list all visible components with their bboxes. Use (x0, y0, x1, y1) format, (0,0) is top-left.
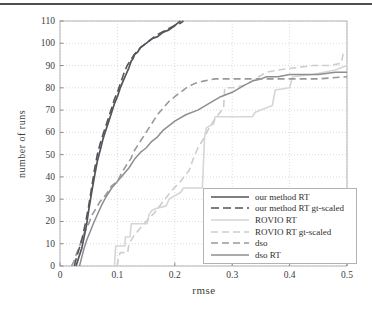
y-tick-label: 80 (46, 83, 56, 93)
legend-item-rovio-rt-gt-scaled: ROVIO RT gt-scaled (210, 226, 356, 237)
legend-line-swatch (210, 252, 250, 258)
y-tick-label: 70 (46, 105, 56, 115)
legend-item-our-method-rt-gt-scaled: our method RT gt-scaled (210, 203, 356, 214)
x-tick-label: 0.4 (284, 270, 296, 280)
y-tick-label: 110 (41, 16, 55, 26)
figure-canvas: 00.10.20.30.40.5010203040506070809010011… (0, 0, 372, 312)
x-axis-label: rmse (192, 284, 215, 296)
x-tick-label: 0 (58, 270, 63, 280)
legend-label: our method RT (255, 192, 309, 202)
y-tick-label: 0 (50, 261, 55, 271)
legend-label: ROVIO RT gt-scaled (255, 227, 331, 237)
y-tick-label: 60 (46, 127, 56, 137)
legend-label: our method RT gt-scaled (255, 203, 344, 213)
x-tick-label: 0.5 (341, 270, 353, 280)
x-tick-label: 0.3 (226, 270, 238, 280)
y-tick-label: 40 (46, 172, 56, 182)
line-chart: 00.10.20.30.40.5010203040506070809010011… (0, 0, 372, 312)
legend-item-rovio-rt: ROVIO RT (210, 215, 356, 226)
y-tick-label: 30 (46, 194, 56, 204)
legend-label: dso (255, 238, 268, 248)
y-tick-label: 100 (41, 38, 56, 48)
legend-box: our method RTour method RT gt-scaledROVI… (203, 188, 357, 264)
y-tick-label: 10 (46, 239, 56, 249)
x-tick-label: 0.1 (111, 270, 123, 280)
y-axis-label: number of runs (16, 110, 27, 178)
legend-item-dso-rt: dso RT (210, 250, 356, 261)
legend-label: ROVIO RT (255, 215, 297, 225)
legend-line-swatch (210, 205, 250, 211)
legend-item-dso: dso (210, 238, 356, 249)
legend-item-our-method-rt: our method RT (210, 191, 356, 202)
y-tick-label: 50 (46, 150, 56, 160)
legend-line-swatch (210, 194, 250, 200)
legend-line-swatch (210, 229, 250, 235)
y-tick-label: 90 (46, 61, 56, 71)
legend-line-swatch (210, 217, 250, 223)
legend-line-swatch (210, 240, 250, 246)
y-tick-label: 20 (46, 216, 56, 226)
legend-label: dso RT (255, 250, 281, 260)
x-tick-label: 0.2 (169, 270, 181, 280)
